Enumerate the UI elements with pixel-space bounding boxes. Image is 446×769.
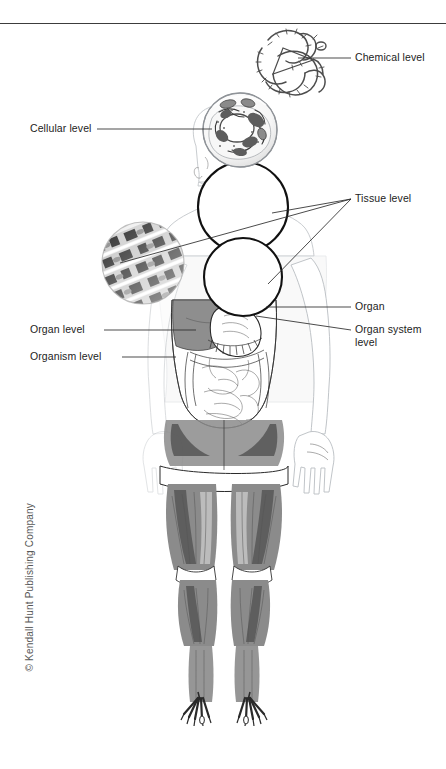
levels-of-organization-illustration <box>0 0 446 769</box>
label-cellular-level: Cellular level <box>30 122 92 135</box>
label-organ: Organ <box>355 300 385 313</box>
label-organism-level: Organism level <box>30 350 101 363</box>
copyright-notice: © Kendall Hunt Publishing Company <box>24 472 35 672</box>
cell-diagram-inset <box>203 93 277 167</box>
label-chemical-level: Chemical level <box>355 51 425 64</box>
anatomy-figure: Chemical level Cellular level Tissue lev… <box>0 0 446 769</box>
molecular-chain-inset <box>256 29 326 97</box>
digestive-organs <box>171 300 276 428</box>
label-organ-level: Organ level <box>30 323 85 336</box>
label-organ-system-level: Organ system level <box>355 323 422 348</box>
label-tissue-level: Tissue level <box>355 192 411 205</box>
legs-musculature <box>160 420 288 702</box>
